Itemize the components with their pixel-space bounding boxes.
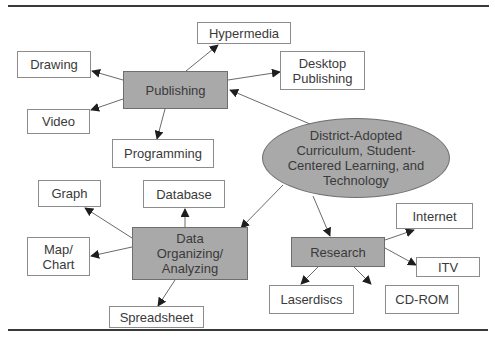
cd-rom-node: CD-ROM [385, 285, 459, 314]
video-node: Video [27, 109, 90, 134]
video-label: Video [42, 114, 75, 129]
laserdiscs-label: Laserdiscs [280, 292, 342, 307]
edge-publishing-programming [157, 109, 165, 139]
internet-label: Internet [412, 209, 456, 224]
edge-publishing-drawing [92, 71, 123, 80]
edge-research-internet [385, 230, 414, 240]
research-node: Research [291, 237, 385, 267]
edge-research-cd-rom [354, 267, 371, 284]
desktop-publishing-node: Desktop Publishing [280, 51, 365, 90]
programming-node: Programming [112, 139, 214, 168]
data-organizing-label: Data Organizing/ Analyzing [157, 231, 223, 276]
edge-core-data [241, 185, 283, 228]
publishing-node: Publishing [123, 71, 228, 109]
core-concept-label: District-Adopted Curriculum, Student- Ce… [288, 128, 425, 188]
edge-data-spreadsheet [158, 280, 175, 306]
publishing-label: Publishing [146, 83, 206, 98]
edge-research-itv [385, 248, 416, 265]
edge-publishing-hypermedia [186, 45, 218, 71]
internet-node: Internet [396, 203, 473, 229]
data-organizing-node: Data Organizing/ Analyzing [132, 227, 248, 280]
cd-rom-label: CD-ROM [395, 292, 448, 307]
desktop-publishing-label: Desktop Publishing [293, 56, 353, 86]
spreadsheet-label: Spreadsheet [120, 310, 194, 325]
programming-label: Programming [124, 146, 202, 161]
drawing-label: Drawing [30, 57, 78, 72]
database-label: Database [156, 187, 212, 202]
graph-node: Graph [38, 180, 101, 207]
hypermedia-node: Hypermedia [197, 22, 291, 44]
database-node: Database [143, 180, 225, 208]
itv-node: ITV [416, 257, 480, 277]
research-label: Research [310, 245, 366, 260]
drawing-node: Drawing [17, 51, 91, 78]
itv-label: ITV [438, 260, 458, 275]
edge-data-graph [85, 208, 132, 238]
map-chart-node: Map/ Chart [27, 237, 90, 276]
laserdiscs-node: Laserdiscs [269, 285, 354, 314]
hypermedia-label: Hypermedia [209, 26, 279, 41]
core-concept-node: District-Adopted Curriculum, Student- Ce… [262, 118, 450, 198]
edge-core-research [313, 196, 330, 236]
graph-label: Graph [51, 186, 87, 201]
edge-publishing-desktop [228, 72, 280, 80]
edge-core-publishing [230, 90, 310, 124]
map-chart-label: Map/ Chart [43, 242, 75, 272]
edge-research-laserdiscs [301, 267, 318, 284]
spreadsheet-node: Spreadsheet [109, 306, 204, 328]
edge-data-map-chart [91, 247, 132, 256]
edge-publishing-video [91, 99, 123, 110]
